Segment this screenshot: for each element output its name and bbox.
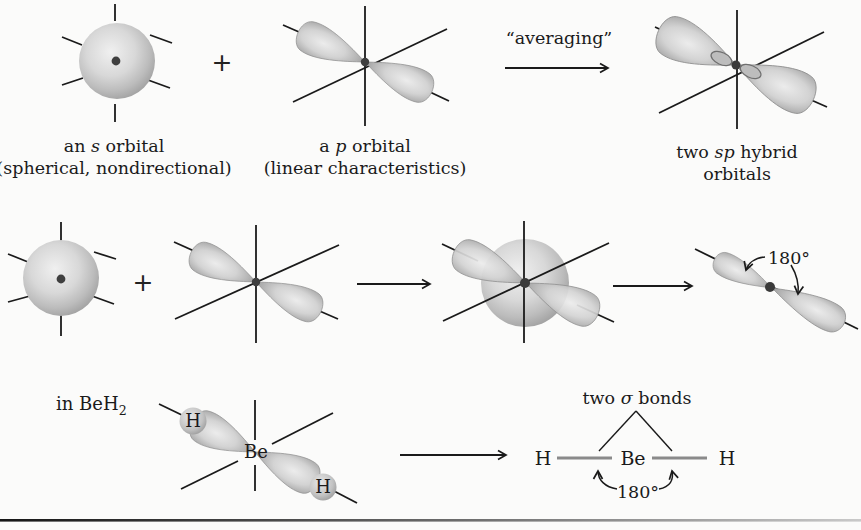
orbital-spike (150, 35, 172, 43)
diagonal-axis (272, 413, 333, 444)
beryllium-label: Be (244, 441, 268, 463)
nucleus-dot (520, 278, 530, 288)
averaging-label: “averaging” (506, 27, 613, 49)
sp-hybridization-figure: “averaging” + an s orbital (spherical, n… (0, 0, 861, 530)
nucleus-dot (57, 275, 66, 284)
nucleus-dot (112, 57, 121, 66)
orbital-spike (8, 296, 30, 302)
structure-be: Be (620, 447, 645, 469)
nucleus-dot (765, 282, 775, 292)
s-orbital-row1 (62, 4, 172, 122)
hydrogen-label: H (185, 410, 201, 432)
s-orbital-label: an s orbital (spherical, nondirectional) (0, 135, 232, 179)
p-lobe (291, 17, 371, 77)
angle-label-structure: 180° (617, 481, 659, 503)
orbital-spike (62, 37, 82, 45)
angle-pointer-arrow (598, 471, 617, 489)
sigma-bonds-label: two σ bonds (583, 387, 692, 409)
p-lobe (358, 47, 438, 107)
s-orbital-row2 (8, 222, 116, 336)
sp-hybrid-label: two sp hybrid orbitals (676, 141, 797, 185)
angle-pointer-arrow (659, 471, 672, 489)
p-lobe (184, 238, 262, 297)
sp-hybrid-row1 (650, 10, 827, 129)
sp-hybrid-lobe (650, 11, 745, 84)
nucleus-dot (361, 58, 369, 66)
sigma-pointer-line (636, 411, 672, 451)
angle-pointer-arrow (791, 265, 798, 294)
sigma-pointer-line (599, 411, 636, 451)
bottom-rule (0, 519, 861, 522)
nucleus-dot (252, 278, 260, 286)
lobe-axis-stub (332, 490, 357, 503)
plus-sign-row1: + (212, 52, 233, 74)
diagonal-axis (181, 461, 238, 489)
p-orbital-row1 (283, 6, 449, 126)
orbital-spike (94, 252, 116, 259)
p-lobe (249, 267, 327, 326)
orbital-spike (62, 78, 83, 85)
angle-label-row2: 180° (768, 247, 810, 269)
structure-h-right: H (719, 447, 736, 469)
superposed-orbitals-row2 (442, 221, 614, 343)
orbital-spike (8, 254, 28, 262)
context-label: in BeH2 (56, 393, 127, 422)
hydrogen-label: H (315, 476, 331, 498)
orbital-spike (148, 80, 170, 88)
nucleus-dot (732, 61, 741, 70)
plus-sign-row2: + (133, 272, 154, 294)
orbital-spike (92, 296, 114, 304)
sp-hybrid-lobe (766, 275, 851, 337)
structure-h-left: H (535, 447, 552, 469)
p-orbital-label: a p orbital (linear characteristics) (264, 135, 467, 179)
p-orbital-row2 (174, 225, 339, 343)
